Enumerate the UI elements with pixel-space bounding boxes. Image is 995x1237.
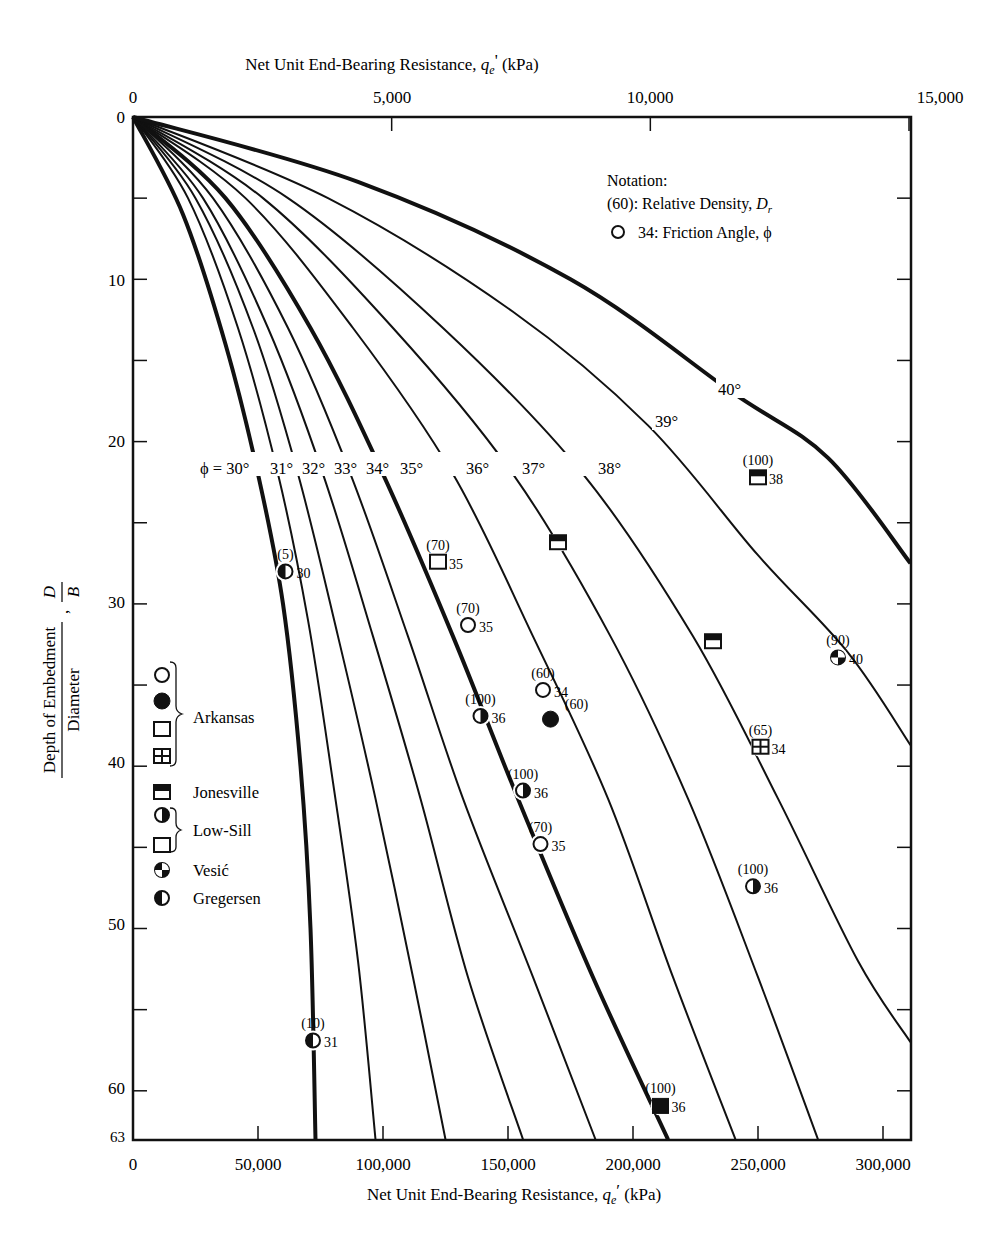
data-point: (60) — [541, 697, 589, 729]
x-axis-ticks: 0 50,000 100,000 150,000 200,000 250,000… — [129, 1155, 911, 1174]
relative-density-label: (70) — [456, 601, 480, 617]
friction-angle-label: 36 — [492, 711, 506, 726]
open-circle-icon — [612, 226, 624, 238]
svg-text:,: , — [53, 610, 72, 614]
svg-text:0: 0 — [117, 108, 126, 127]
svg-text:300,000: 300,000 — [855, 1155, 910, 1174]
data-point: (100)36 — [738, 862, 778, 896]
friction-angle-label: 36 — [764, 881, 778, 896]
svg-text:150,000: 150,000 — [480, 1155, 535, 1174]
curve-label-30: ϕ = 30° — [200, 459, 249, 478]
top-axis-title: Net Unit End-Bearing Resistance, qe' (kP… — [245, 51, 539, 77]
curve-label-31: 31° — [270, 459, 293, 478]
data-point: (100)36 — [465, 692, 505, 726]
data-point: (60)34 — [531, 666, 568, 700]
friction-angle-label: 34 — [772, 742, 786, 757]
half-filled-circle-left-icon — [155, 891, 169, 905]
data-point — [548, 532, 568, 552]
svg-text:Diameter: Diameter — [64, 668, 83, 732]
svg-text:30: 30 — [108, 593, 125, 612]
data-point: (70)35 — [529, 820, 566, 854]
legend-label-lowsill: Low-Sill — [193, 821, 252, 840]
svg-text:50: 50 — [108, 915, 125, 934]
svg-text:60: 60 — [108, 1079, 125, 1098]
svg-text:5,000: 5,000 — [373, 88, 411, 107]
y-axis-title: Depth of Embedment Diameter , D B — [40, 582, 83, 778]
relative-density-label: (70) — [529, 820, 553, 836]
relative-density-label: (100) — [743, 453, 774, 469]
relative-density-label: (90) — [826, 633, 850, 649]
relative-density-label: (100) — [645, 1081, 676, 1097]
half-filled-circle-right-icon — [155, 808, 169, 822]
friction-angle-label: 35 — [479, 620, 493, 635]
svg-text:D: D — [40, 585, 59, 599]
svg-text:250,000: 250,000 — [730, 1155, 785, 1174]
friction-angle-label: 40 — [849, 652, 863, 667]
legend-label-arkansas: Arkansas — [193, 708, 254, 727]
relative-density-label: (60) — [565, 697, 589, 713]
legend: Arkansas Jonesville Low-Sill Vesić Grege… — [154, 662, 261, 908]
data-point: (70)35 — [426, 538, 463, 572]
friction-angle-curves — [133, 117, 911, 1139]
data-point: (70)35 — [456, 601, 493, 635]
svg-text:50,000: 50,000 — [235, 1155, 282, 1174]
svg-text:40: 40 — [108, 753, 125, 772]
curve-phi-36 — [133, 117, 736, 1139]
legend-label-jonesville: Jonesville — [193, 783, 259, 802]
svg-text:200,000: 200,000 — [605, 1155, 660, 1174]
curve-label-37: 37° — [522, 459, 545, 478]
data-point: (100)38 — [743, 453, 783, 487]
open-circle-icon — [155, 668, 169, 682]
relative-density-label: (70) — [426, 538, 450, 554]
data-point: (65)34 — [749, 723, 786, 757]
filled-circle-icon — [154, 693, 170, 709]
relative-density-label: (100) — [465, 692, 496, 708]
friction-angle-label: 30 — [297, 566, 311, 581]
relative-density-label: (100) — [508, 767, 539, 783]
svg-text:100,000: 100,000 — [355, 1155, 410, 1174]
friction-angle-label: 36 — [534, 786, 548, 801]
grid-square-icon — [154, 749, 170, 763]
curve-label-33: 33° — [334, 459, 357, 478]
svg-text:0: 0 — [129, 88, 138, 107]
svg-text:Depth of Embedment: Depth of Embedment — [40, 627, 59, 774]
plot-frame — [133, 117, 911, 1140]
relative-density-label: (60) — [531, 666, 555, 682]
svg-text:20: 20 — [108, 432, 125, 451]
svg-text:34: Friction Angle, ϕ: 34: Friction Angle, ϕ — [638, 224, 772, 242]
curve-phi-40 — [133, 117, 911, 563]
data-point: (10)31 — [301, 1016, 338, 1050]
tick-marks — [133, 117, 911, 1140]
relative-density-label: (10) — [301, 1016, 325, 1032]
curve-label-40: 40° — [718, 380, 741, 399]
relative-density-label: (65) — [749, 723, 773, 739]
open-square-icon — [154, 838, 170, 852]
notation-box: Notation: (60): Relative Density, Dr 34:… — [607, 172, 773, 242]
svg-text:15,000: 15,000 — [917, 88, 964, 107]
svg-text:10: 10 — [108, 271, 125, 290]
curve-phi-35 — [133, 117, 668, 1139]
legend-label-gregersen: Gregersen — [193, 889, 261, 908]
curve-label-38: 38° — [598, 459, 621, 478]
bearing-resistance-chart: Net Unit End-Bearing Resistance, qe' (kP… — [0, 0, 995, 1237]
x-axis-title: Net Unit End-Bearing Resistance, qe′ (kP… — [367, 1181, 661, 1207]
top-axis-ticks: 0 5,000 10,000 15,000 — [129, 88, 964, 107]
relative-density-label: (5) — [277, 547, 294, 563]
curve-label-35: 35° — [400, 459, 423, 478]
friction-angle-label: 35 — [552, 839, 566, 854]
svg-text:B: B — [64, 586, 83, 597]
friction-angle-label: 36 — [672, 1100, 686, 1115]
curve-label-36: 36° — [466, 459, 489, 478]
data-point: (5)30 — [276, 547, 311, 581]
svg-text:(60): Relative Density, Dr: (60): Relative Density, Dr — [607, 195, 773, 215]
friction-angle-label: 31 — [324, 1035, 338, 1050]
friction-angle-label: 35 — [449, 557, 463, 572]
curve-labels: ϕ = 30° 31° 32° 33° 34° 35° 36° 37° 38° … — [196, 376, 752, 478]
data-point — [703, 631, 723, 651]
curve-label-34: 34° — [366, 459, 389, 478]
relative-density-label: (100) — [738, 862, 769, 878]
friction-angle-label: 38 — [769, 472, 783, 487]
data-point: (90)40 — [826, 633, 863, 667]
quartered-circle-icon — [155, 863, 169, 877]
open-square-icon — [154, 722, 170, 736]
